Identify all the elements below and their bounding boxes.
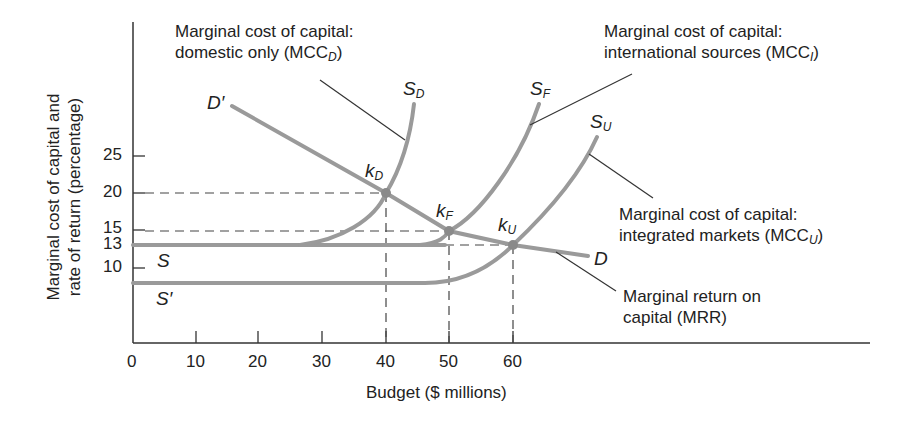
label-kd: kD (365, 160, 383, 187)
label-d-prime: D′ (207, 92, 224, 113)
label-sf: SF (530, 78, 550, 105)
x-tick-10: 10 (186, 352, 205, 372)
y-axis-title: Marginal cost of capital and rate of ret… (43, 37, 85, 357)
annotation-mcc-integrated-line1: Marginal cost of capital: (619, 204, 823, 225)
annotation-mrr: Marginal return on capital (MRR) (623, 286, 761, 328)
annotation-mcc-international: Marginal cost of capital: international … (604, 21, 819, 68)
x-tick-50: 50 (439, 352, 458, 372)
point-kf (444, 226, 454, 236)
label-s: S (157, 250, 170, 271)
y-ticks (133, 156, 145, 268)
x-tick-0: 0 (127, 352, 136, 372)
label-sd: SD (403, 78, 424, 105)
annotation-mrr-line1: Marginal return on (623, 286, 761, 307)
point-kd (381, 188, 391, 198)
label-ku: kU (498, 214, 516, 241)
y-tick-10: 10 (103, 257, 122, 277)
label-su: SU (590, 111, 611, 138)
x-tick-20: 20 (248, 352, 267, 372)
annotation-mcc-international-line2: international sources (MCCI) (604, 42, 819, 68)
y-tick-20: 20 (103, 182, 122, 202)
x-tick-30: 30 (312, 352, 331, 372)
x-ticks (196, 331, 513, 343)
label-d: D (594, 248, 608, 269)
annotation-mcc-integrated: Marginal cost of capital: integrated mar… (619, 204, 823, 251)
annotation-mcc-domestic: Marginal cost of capital: domestic only … (175, 21, 354, 68)
x-tick-60: 60 (503, 352, 522, 372)
annotation-mcc-international-line1: Marginal cost of capital: (604, 21, 819, 42)
annotation-mcc-domestic-line1: Marginal cost of capital: (175, 21, 354, 42)
label-s-prime: S′ (156, 288, 172, 309)
y-axis-title-line2: rate of return (percentage) (64, 37, 85, 357)
annotation-mcc-integrated-line2: integrated markets (MCCU) (619, 225, 823, 251)
y-axis-title-line1: Marginal cost of capital and (43, 37, 64, 357)
curve-mcc-integrated (133, 137, 597, 283)
label-kf: kF (436, 200, 453, 227)
annotation-mrr-line2: capital (MRR) (623, 307, 761, 328)
x-axis-title: Budget ($ millions) (366, 382, 507, 403)
y-tick-13: 13 (103, 234, 122, 254)
annotation-mcc-domestic-line2: domestic only (MCCD) (175, 42, 354, 68)
y-tick-25: 25 (103, 145, 122, 165)
x-tick-40: 40 (376, 352, 395, 372)
reference-dashes (145, 193, 513, 343)
point-ku (508, 240, 518, 250)
